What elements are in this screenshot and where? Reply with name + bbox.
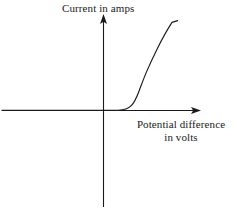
plot-area [0, 0, 235, 212]
x-axis-title: Potential difference in volts [133, 118, 229, 143]
diode-iv-characteristic-figure: Current in amps Potential difference in … [0, 0, 235, 212]
x-axis-title-line-2: in volts [133, 131, 229, 144]
x-axis-title-line-1: Potential difference [133, 118, 229, 131]
diode-curve [2, 21, 178, 111]
y-axis-title: Current in amps [62, 2, 134, 15]
